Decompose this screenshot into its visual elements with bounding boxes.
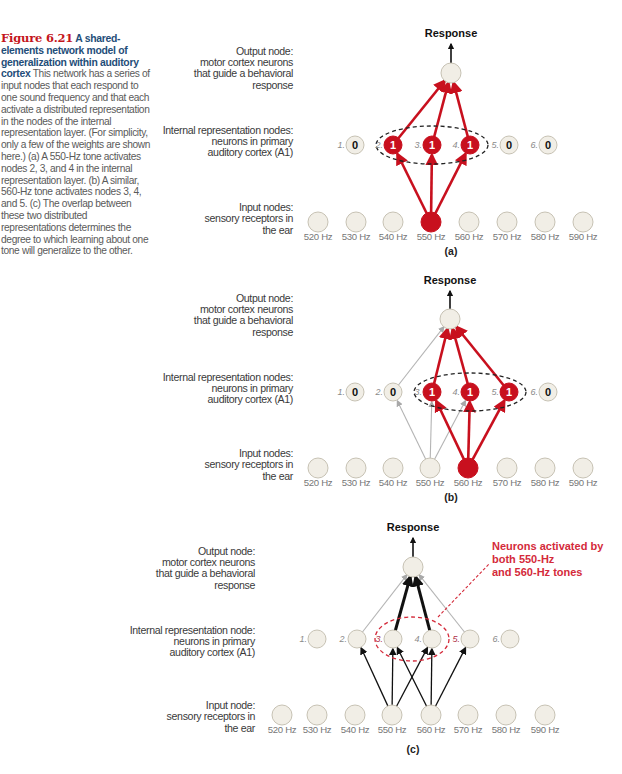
node-index: 3. [375,634,383,644]
node-index: 1. [337,387,345,397]
input-layer-label: the ear [262,224,293,236]
input-nodes: 520 Hz530 Hz540 Hz550 Hz560 Hz570 Hz580 … [304,212,598,242]
input-node [459,212,479,232]
node-index: 6. [492,634,500,644]
connection-arrow [419,575,465,634]
response-label: Response [387,521,440,533]
node-index: 1. [337,140,345,150]
connection-arrow [454,83,469,139]
input-node [382,705,402,725]
frequency-label: 530 Hz [303,724,332,735]
node-index: 6. [530,140,538,150]
input-node [421,705,441,725]
input-node [272,705,292,725]
node-index: 3. [414,387,422,397]
input-node [308,458,328,478]
input-node [535,705,555,725]
node-activation-value: 0 [352,139,358,151]
node-index: 5. [491,140,499,150]
input-node [573,458,593,478]
node-activation-value: 1 [506,386,512,398]
panel-label: (b) [444,491,457,503]
frequency-label: 560 Hz [417,724,446,735]
input-node [496,705,516,725]
input-node [346,458,366,478]
input-node [458,458,478,478]
output-layer-label: response [252,326,293,338]
node-index: 4. [414,634,422,644]
node-activation-value: 1 [467,386,473,398]
output-node [440,309,460,329]
internal-nodes: 1.02.13.14.15.06.0 [337,136,557,154]
node-index: 4. [452,387,460,397]
node-activation-value: 1 [429,139,435,151]
internal-node [423,630,441,648]
frequency-label: 540 Hz [341,724,370,735]
frequency-label: 570 Hz [493,231,522,242]
input-nodes: 520 Hz530 Hz540 Hz550 Hz560 Hz570 Hz580 … [268,705,560,735]
node-activation-value: 1 [390,139,396,151]
frequency-label: 580 Hz [492,724,521,735]
overlap-annotation: and 560-Hz tones [492,566,582,578]
internal-nodes: 1.2.3.4.5.6. [299,630,519,648]
connections [397,327,504,462]
input-layer-label: the ear [262,470,293,482]
output-layer-label: response [214,579,255,591]
node-index: 5. [491,387,499,397]
frequency-label: 520 Hz [304,231,333,242]
internal-node [461,630,479,648]
network-diagram: Output node:motor cortex neuronsthat gui… [0,0,622,774]
input-node [458,705,478,725]
frequency-label: 570 Hz [454,724,483,735]
input-layer-label: sensory receptors in [205,212,294,224]
connection-arrow [430,402,432,461]
input-node [308,212,328,232]
input-layer-label: sensory receptors in [167,710,256,722]
input-node [535,212,555,232]
node-activation-value: 0 [352,386,358,398]
connection-arrow [395,577,410,633]
response-label: Response [425,27,478,39]
frequency-label: 590 Hz [531,724,560,735]
overlap-annotation: Neurons activated by [492,540,604,552]
connection-arrow [361,575,407,634]
connection-arrow [397,401,427,462]
internal-node [348,630,366,648]
connection-arrow [416,577,431,633]
input-node [573,212,593,232]
internal-layer-label: auditory cortex (A1) [208,393,293,405]
frequency-label: 550 Hz [417,231,446,242]
output-layer-label: that guide a behavioral [156,567,255,579]
input-layer-label: sensory receptors in [205,458,294,470]
internal-node [501,630,519,648]
node-activation-value: 0 [506,139,512,151]
node-index: 4. [452,140,460,150]
input-node [420,458,440,478]
input-node [307,705,327,725]
frequency-label: 540 Hz [379,231,408,242]
output-node [403,557,423,577]
input-node [497,458,517,478]
input-node [421,212,441,232]
frequency-label: 580 Hz [531,231,560,242]
node-activation-value: 0 [545,139,551,151]
input-node [345,705,365,725]
connection-arrow [397,81,444,140]
input-node [383,212,403,232]
layer-labels: Output node:motor cortex neuronsthat gui… [163,45,294,236]
layer-labels: Output node:motor cortex neuronsthat gui… [130,545,256,734]
connection-arrow [431,649,432,708]
node-index: 3. [414,140,422,150]
connection-arrow [434,648,465,709]
frequency-label: 520 Hz [304,477,333,488]
panel-label: (c) [407,743,420,755]
node-index: 2. [374,140,383,150]
frequency-label: 540 Hz [379,477,408,488]
frequency-label: 580 Hz [531,477,560,488]
frequency-label: 560 Hz [454,477,483,488]
frequency-label: 530 Hz [342,231,371,242]
internal-nodes: 1.02.03.14.15.16.0 [337,383,557,401]
layer-labels: Output node:motor cortex neuronsthat gui… [163,292,294,482]
panel-b: Output node:motor cortex neuronsthat gui… [163,274,598,503]
node-index: 2. [374,387,383,397]
